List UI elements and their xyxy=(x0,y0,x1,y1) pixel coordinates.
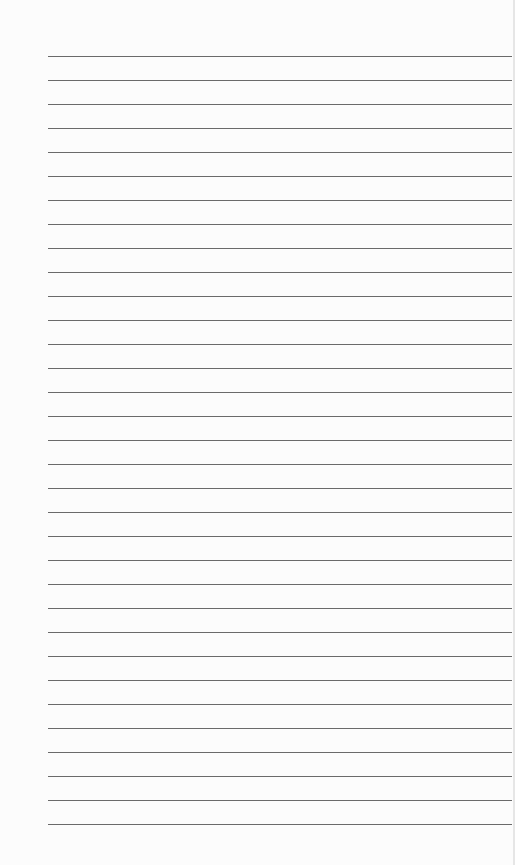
ruled-line xyxy=(48,56,512,57)
ruled-line xyxy=(48,704,512,705)
ruled-line xyxy=(48,224,512,225)
ruled-line xyxy=(48,128,512,129)
ruled-line xyxy=(48,368,512,369)
ruled-line xyxy=(48,320,512,321)
ruled-line xyxy=(48,728,512,729)
ruled-line xyxy=(48,560,512,561)
ruled-line xyxy=(48,824,512,825)
ruled-line xyxy=(48,416,512,417)
ruled-line xyxy=(48,608,512,609)
ruled-line xyxy=(48,776,512,777)
ruled-line xyxy=(48,104,512,105)
ruled-line xyxy=(48,176,512,177)
ruled-line xyxy=(48,680,512,681)
ruled-line xyxy=(48,584,512,585)
ruled-line xyxy=(48,80,512,81)
ruled-line xyxy=(48,512,512,513)
ruled-line xyxy=(48,488,512,489)
ruled-line xyxy=(48,152,512,153)
ruled-line xyxy=(48,752,512,753)
ruled-line xyxy=(48,656,512,657)
ruled-line xyxy=(48,248,512,249)
lined-paper xyxy=(0,0,513,865)
ruled-line xyxy=(48,296,512,297)
ruled-line xyxy=(48,464,512,465)
ruled-line xyxy=(48,200,512,201)
ruled-line xyxy=(48,392,512,393)
ruled-line xyxy=(48,800,512,801)
ruled-line xyxy=(48,344,512,345)
ruled-line xyxy=(48,632,512,633)
ruled-line xyxy=(48,536,512,537)
ruled-line xyxy=(48,272,512,273)
ruled-line xyxy=(48,440,512,441)
